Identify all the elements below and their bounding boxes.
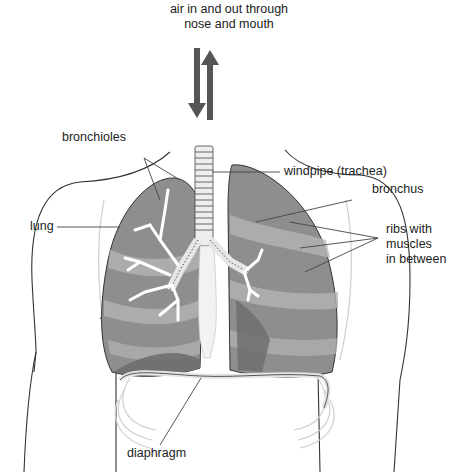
- lung-label: lung: [30, 219, 54, 234]
- ribs-label-line3: in between: [386, 252, 446, 267]
- air-label: air in and out through nose and mouth: [160, 2, 298, 32]
- diaphragm-band: [120, 373, 328, 408]
- bronchioles-label: bronchioles: [62, 130, 126, 145]
- air-arrows: [188, 48, 219, 120]
- windpipe-label: windpipe (trachea): [284, 164, 387, 179]
- ribs-label-line1: ribs with: [386, 222, 446, 237]
- respiratory-diagram: air in and out through nose and mouth br…: [0, 0, 454, 472]
- ribs-label-line2: muscles: [386, 237, 446, 252]
- diaphragm-label: diaphragm: [127, 446, 186, 461]
- body-outline: [24, 150, 410, 472]
- air-label-line2: nose and mouth: [160, 17, 298, 32]
- ribs-label: ribs with muscles in between: [386, 222, 446, 267]
- bronchus-label: bronchus: [372, 182, 423, 197]
- left-lung: [102, 178, 204, 376]
- air-label-line1: air in and out through: [160, 2, 298, 17]
